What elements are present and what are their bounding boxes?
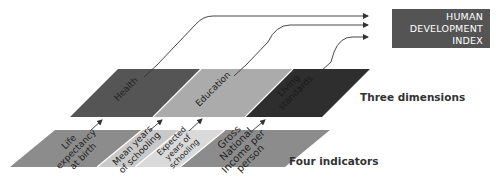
three-dimensions-label: Three dimensions xyxy=(360,91,465,103)
hdi-line-3: INDEX xyxy=(392,35,483,47)
hdi-diagram: HUMAN DEVELOPMENT INDEX Health Education… xyxy=(0,0,499,184)
hdi-line-2: DEVELOPMENT xyxy=(392,23,483,35)
arrow-living-standards-to-hdi xyxy=(320,37,368,72)
four-indicators-label: Four indicators xyxy=(289,155,378,167)
hdi-box: HUMAN DEVELOPMENT INDEX xyxy=(392,9,490,48)
dimension-arrows xyxy=(144,16,368,77)
hdi-line-1: HUMAN xyxy=(392,11,483,23)
